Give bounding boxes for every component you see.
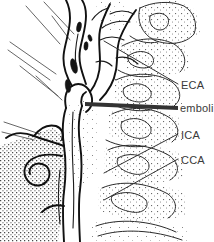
leader-lines <box>0 0 214 242</box>
leader-line-cca <box>104 159 178 200</box>
label-cca: CCA <box>181 154 205 166</box>
label-emboli: emboli <box>180 102 214 114</box>
leader-line-ica <box>104 134 178 173</box>
carotid-emboli-figure: ECA emboli ICA CCA <box>0 0 214 242</box>
label-ica: ICA <box>181 129 200 141</box>
label-eca: ECA <box>181 79 204 91</box>
leader-line-emboli <box>85 102 178 110</box>
leader-line-eca <box>104 41 178 84</box>
